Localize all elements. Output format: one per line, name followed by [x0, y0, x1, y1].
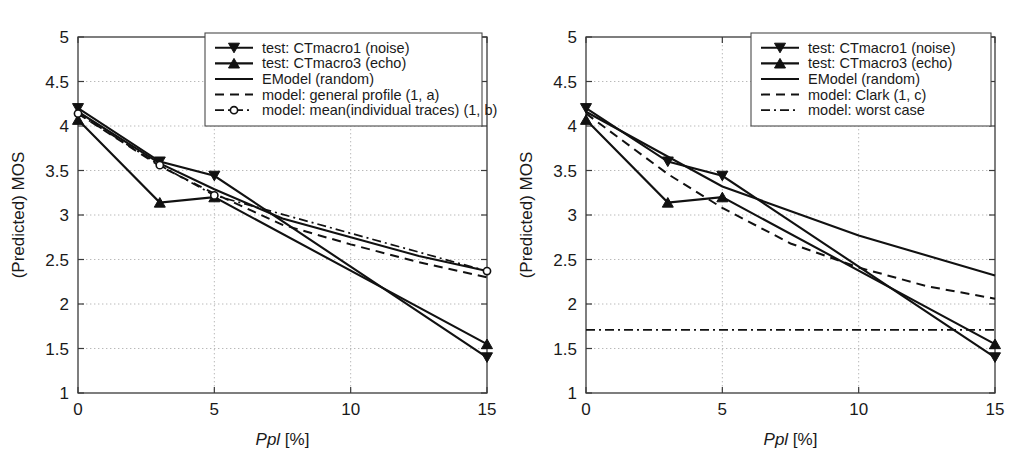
x-axis-label: Ppl [%]: [764, 430, 818, 449]
series-line: [586, 120, 995, 344]
y-tick-label: 2: [60, 295, 69, 314]
legend: test: CTmacro1 (noise)test: CTmacro3 (ec…: [205, 33, 497, 126]
series-line: [586, 112, 995, 276]
x-axis-label-unit: [%]: [280, 430, 309, 449]
panel-a-canvas: 11.522.533.544.55051015(Predicted) MOSPp…: [0, 0, 508, 458]
y-tick-label: 1.5: [45, 340, 69, 359]
legend-b-label: EModel (random): [808, 71, 920, 87]
marker-circle-open: [156, 162, 163, 169]
series-line: [78, 114, 487, 272]
y-tick-label: 1.5: [553, 340, 577, 359]
y-tick-label: 2: [568, 295, 577, 314]
series-solid: [581, 115, 1001, 349]
legend-b-label: model: worst case: [808, 102, 925, 118]
series-dashed: [78, 114, 487, 278]
series-dashdot: [74, 110, 490, 275]
x-tick-label: 15: [478, 400, 497, 419]
panel-a: 11.522.533.544.55051015(Predicted) MOSPp…: [0, 0, 508, 458]
marker-triangle-up: [482, 339, 493, 349]
x-axis-label-variable: Ppl: [256, 430, 282, 449]
legend: test: CTmacro1 (noise)test: CTmacro3 (ec…: [751, 33, 991, 126]
series-solid: [586, 112, 995, 276]
marker-triangle-up: [990, 339, 1001, 349]
y-tick-label: 2.5: [553, 251, 577, 270]
legend-a-label: EModel (random): [262, 71, 374, 87]
series-dashed: [586, 114, 995, 299]
y-tick-label: 3: [60, 206, 69, 225]
x-tick-label: 10: [849, 400, 868, 419]
y-tick-label: 5: [60, 28, 69, 47]
y-axis-label: (Predicted) MOS: [517, 152, 536, 279]
x-tick-label: 15: [986, 400, 1005, 419]
x-tick-label: 10: [341, 400, 360, 419]
series-line: [78, 112, 487, 271]
y-tick-label: 1: [60, 384, 69, 403]
x-axis-label-unit: [%]: [788, 430, 817, 449]
x-tick-label: 0: [73, 400, 82, 419]
series-line: [78, 120, 487, 344]
x-tick-label: 5: [210, 400, 219, 419]
x-axis-label: Ppl [%]: [256, 430, 310, 449]
series-solid: [78, 112, 487, 271]
y-tick-label: 3.5: [553, 162, 577, 181]
y-tick-label: 2.5: [45, 251, 69, 270]
legend-b-label: test: CTmacro3 (echo): [808, 55, 952, 71]
legend-a-label: model: general profile (1, a): [262, 87, 439, 103]
x-tick-label: 0: [581, 400, 590, 419]
legend-b-label: model: Clark (1, c): [808, 87, 926, 103]
legend-b-label: test: CTmacro1 (noise): [808, 40, 955, 56]
y-tick-label: 1: [568, 384, 577, 403]
marker-circle-open: [74, 110, 81, 117]
y-tick-label: 4.5: [553, 73, 577, 92]
y-tick-label: 5: [568, 28, 577, 47]
x-axis-label-variable: Ppl: [764, 430, 790, 449]
y-tick-label: 4: [60, 117, 69, 136]
series-group: [73, 104, 493, 363]
series-line: [78, 114, 487, 278]
series-group: [581, 104, 1001, 363]
series-line: [586, 114, 995, 299]
marker-circle-open: [211, 192, 218, 199]
legend-a-label: test: CTmacro1 (noise): [262, 40, 409, 56]
x-tick-label: 5: [718, 400, 727, 419]
y-tick-label: 4: [568, 117, 577, 136]
y-tick-label: 4.5: [45, 73, 69, 92]
marker-triangle-down: [990, 353, 1001, 363]
legend-a-label: test: CTmacro3 (echo): [262, 55, 406, 71]
legend-a-label: model: mean(individual traces) (1, b): [262, 102, 497, 118]
y-tick-label: 3: [568, 206, 577, 225]
marker-triangle-down: [482, 353, 493, 363]
panel-b-canvas: 11.522.533.544.55051015(Predicted) MOSPp…: [508, 0, 1016, 458]
marker-circle-open: [230, 107, 237, 114]
y-tick-label: 3.5: [45, 162, 69, 181]
panel-b: 11.522.533.544.55051015(Predicted) MOSPp…: [508, 0, 1016, 458]
y-axis-label: (Predicted) MOS: [9, 152, 28, 279]
marker-circle-open: [483, 267, 490, 274]
figure-two-panel-chart: 11.522.533.544.55051015(Predicted) MOSPp…: [0, 0, 1016, 458]
